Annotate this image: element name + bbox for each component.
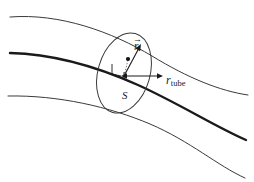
right-angle-icon <box>112 64 121 76</box>
surface-point-label: S <box>122 90 128 101</box>
radius-arrow-icon <box>121 73 163 79</box>
field-point-dot-icon <box>126 57 130 61</box>
lower-boundary-curve <box>8 96 245 178</box>
position-vector-label: →r <box>134 41 138 53</box>
radius-label-subscript: tube <box>171 78 186 88</box>
tube-axis-line <box>10 53 246 140</box>
construction-dotted-line <box>124 60 128 76</box>
flux-tube-figure: rtube S →r <box>0 0 254 182</box>
radius-label: rtube <box>166 74 186 87</box>
position-vector-symbol-wrap: →r <box>134 41 138 53</box>
vector-accent-arrow-icon: → <box>133 35 142 44</box>
